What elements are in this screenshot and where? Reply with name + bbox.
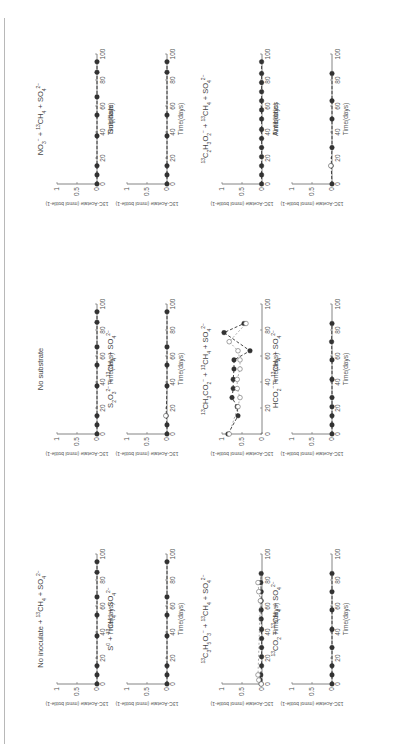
y-axis-label: 13C-Acetate (mmol bottle-1) [115,201,178,207]
y-tick-label: 1 [218,437,225,441]
data-point-filled [165,173,170,178]
data-point-filled [95,432,100,437]
x-tick-label: 20 [334,154,341,162]
x-tick-label: 80 [169,576,176,584]
x-tick-label: 80 [334,326,341,334]
panel-title: HCO2− + 13CH4 + SO42− [270,330,282,408]
data-point-filled [95,60,100,65]
series-line-open [258,583,261,684]
x-tick-label: 100 [99,48,106,59]
data-point-filled [165,113,170,118]
y-tick-label: 1 [218,687,225,691]
panel-title: NO3− + 13CH4 + SO42− [35,83,47,156]
y-axis-label: 13C-Acetate (mmol bottle-1) [115,451,178,457]
data-point-filled [330,404,335,409]
data-point-open [238,358,243,363]
panel-title: 13C3H5O3− + 13CH4 + SO42− [200,574,212,663]
data-point-filled [165,595,170,600]
data-point-filled [95,309,100,314]
data-point-filled [259,645,264,650]
data-point-open [244,321,249,326]
x-tick-label: 40 [169,378,176,386]
y-tick-label: 0 [328,687,335,691]
data-point-filled [330,117,335,122]
x-tick-label: 40 [99,128,106,136]
data-point-filled [95,173,100,178]
x-tick-label: 80 [169,76,176,84]
data-point-filled [95,164,100,169]
y-tick-label: 0 [258,187,265,191]
x-tick-label: 0 [264,182,271,186]
y-tick-label: 0 [93,187,100,191]
y-tick-label: 0.5 [73,187,80,196]
x-tick-label: 100 [334,48,341,59]
x-tick-label: 20 [169,154,176,162]
x-tick-label: 60 [169,102,176,110]
y-axis-label: 13C-Acetate (mmol bottle-1) [210,451,273,457]
data-point-filled [330,589,335,594]
data-point-filled [330,432,335,437]
x-tick-label: 20 [264,404,271,412]
data-point-filled [165,664,170,669]
x-tick-label: 20 [99,404,106,412]
x-tick-label: 40 [264,128,271,136]
x-tick-label: 100 [169,298,176,309]
x-axis-label: Time(days) [177,103,185,135]
y-tick-label: 1 [123,187,130,191]
data-point-filled [330,377,335,382]
data-point-filled [259,164,264,169]
x-tick-label: 60 [334,602,341,610]
y-tick-label: 0.5 [143,187,150,196]
data-point-filled [259,627,264,632]
y-axis-label: 13C-Acetate (mmol bottle-1) [210,701,273,707]
data-point-open [257,678,262,683]
data-point-filled [95,682,100,687]
y-axis-label: 13C-Acetate (mmol bottle-1) [280,701,343,707]
x-tick-label: 80 [99,76,106,84]
y-tick-label: 1 [288,437,295,441]
x-tick-label: 40 [334,628,341,636]
y-tick-label: 0.5 [143,437,150,446]
panel-title: No substrate [36,348,45,391]
data-point-filled [95,70,100,75]
x-tick-label: 0 [264,432,271,436]
data-point-filled [330,358,335,363]
figure: 02040608010000.51Time(days)13C-Acetate (… [0,0,401,744]
x-tick-label: 100 [264,48,271,59]
panel-8: 02040608010000.51Time(days)13C-Acetate (… [200,298,280,457]
panel-10: 02040608010000.51Time(days)13C-Acetate (… [270,548,350,707]
x-tick-label: 40 [264,378,271,386]
data-point-filled [95,345,100,350]
data-point-open [256,580,261,585]
panel-7: 02040608010000.51Time(days)13C-Acetate (… [200,548,280,707]
y-tick-label: 0.5 [73,687,80,696]
data-point-filled [165,613,170,618]
data-point-filled [259,89,264,94]
data-point-filled [259,182,264,187]
x-tick-label: 20 [169,654,176,662]
data-point-filled [165,634,170,639]
y-axis-label: 13C-Acetate (mmol bottle-1) [45,701,108,707]
data-point-filled [329,339,334,344]
y-tick-label: 0.5 [308,437,315,446]
data-point-filled [259,71,264,76]
panel-1: 02040608010000.51Time(days)13C-Acetate (… [35,548,115,707]
x-tick-label: 60 [334,102,341,110]
data-point-open [227,432,232,437]
x-tick-label: 60 [99,602,106,610]
x-tick-label: 20 [99,654,106,662]
data-point-filled [259,60,264,65]
x-tick-label: 80 [264,76,271,84]
x-axis-label: Time(days) [342,353,350,385]
data-point-filled [165,164,170,169]
y-axis-label: 13C-Acetate (mmol bottle-1) [45,451,108,457]
data-point-filled [165,363,170,368]
x-tick-label: 0 [169,182,176,186]
data-point-filled [259,136,264,141]
data-point-filled [95,320,100,325]
panel-11: 02040608010000.51Time(days)13C-Acetate (… [270,298,350,457]
data-point-filled [95,570,100,575]
data-point-filled [95,384,100,389]
data-point-open [164,413,169,418]
y-tick-label: 1 [288,687,295,691]
